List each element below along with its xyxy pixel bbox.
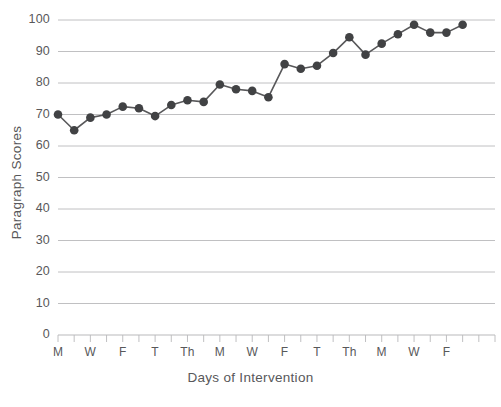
x-axis-ticks [58, 335, 495, 342]
data-point [118, 102, 127, 111]
x-tick-label: Th [172, 345, 202, 359]
series-markers [54, 20, 467, 134]
x-tick-label: F [108, 345, 138, 359]
x-tick-label: F [431, 345, 461, 359]
gridlines [58, 20, 495, 335]
y-tick-label: 10 [10, 296, 50, 310]
data-point [248, 87, 257, 96]
data-point [232, 85, 241, 94]
data-point [216, 80, 225, 89]
x-tick-label: M [367, 345, 397, 359]
x-tick-label: F [270, 345, 300, 359]
data-point [151, 112, 160, 121]
data-point [264, 93, 273, 102]
y-tick-label: 80 [10, 75, 50, 89]
x-tick-label: W [237, 345, 267, 359]
y-tick-label: 60 [10, 138, 50, 152]
y-tick-label: 100 [10, 12, 50, 26]
data-point [135, 104, 144, 113]
y-tick-label: 90 [10, 44, 50, 58]
data-point [329, 49, 338, 58]
data-point [102, 110, 111, 119]
data-point [280, 60, 289, 69]
y-tick-label: 70 [10, 107, 50, 121]
data-point [167, 101, 176, 110]
data-point [442, 28, 451, 37]
x-tick-label: T [302, 345, 332, 359]
data-point [426, 28, 435, 37]
data-point [458, 20, 467, 29]
data-point [410, 20, 419, 29]
line-chart: Paragraph Scores Days of Intervention 01… [0, 0, 501, 407]
y-tick-label: 40 [10, 201, 50, 215]
x-tick-label: W [399, 345, 429, 359]
data-point [86, 113, 95, 122]
y-tick-label: 20 [10, 264, 50, 278]
data-point [377, 39, 386, 48]
x-tick-label: W [75, 345, 105, 359]
x-tick-label: T [140, 345, 170, 359]
y-tick-label: 0 [10, 327, 50, 341]
data-point [199, 98, 208, 107]
x-tick-label: M [43, 345, 73, 359]
x-tick-label: M [205, 345, 235, 359]
data-point [183, 96, 192, 105]
data-point [54, 110, 63, 119]
data-point [345, 33, 354, 42]
data-point [70, 126, 79, 135]
x-tick-label: Th [334, 345, 364, 359]
data-point [296, 65, 305, 74]
data-point [313, 61, 322, 70]
data-point [361, 50, 370, 59]
y-tick-label: 50 [10, 170, 50, 184]
data-point [394, 30, 403, 39]
y-tick-label: 30 [10, 233, 50, 247]
